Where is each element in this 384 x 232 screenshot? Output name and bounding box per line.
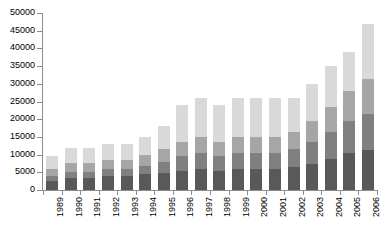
y-axis-tick-label: 10000 xyxy=(0,150,35,159)
bar xyxy=(288,98,300,190)
bar-segment xyxy=(176,171,188,190)
bar-segment xyxy=(269,169,281,190)
bar-segment xyxy=(65,163,77,171)
y-axis-labels: 5000045000400003500030000250002000015000… xyxy=(0,0,35,232)
bar-segment xyxy=(121,144,133,160)
y-axis-tick xyxy=(37,190,42,191)
bar xyxy=(46,156,58,190)
bar-segment xyxy=(306,121,318,142)
bar-segment xyxy=(343,91,355,121)
y-axis-tick-label: 5000 xyxy=(0,167,35,176)
x-axis-tick-label: 1990 xyxy=(75,197,84,217)
x-axis-tick-label: 1997 xyxy=(205,197,214,217)
y-axis-tick xyxy=(37,172,42,173)
bar xyxy=(65,148,77,190)
y-axis-tick xyxy=(37,66,42,67)
x-axis-tick xyxy=(266,191,267,195)
bar-segment xyxy=(176,105,188,142)
bar xyxy=(158,126,170,190)
bar xyxy=(306,84,318,190)
bar-segment xyxy=(195,98,207,137)
bar-segment xyxy=(232,98,244,137)
bar-segment xyxy=(65,148,77,164)
bar xyxy=(362,24,374,190)
x-axis-tick-label: 1992 xyxy=(112,197,121,217)
x-axis-tick xyxy=(321,191,322,195)
bar xyxy=(343,52,355,190)
x-axis-tick-label: 1994 xyxy=(149,197,158,217)
x-axis-tick xyxy=(358,191,359,195)
x-axis-tick-label: 1991 xyxy=(93,197,102,217)
bar-segment xyxy=(232,153,244,169)
x-axis-tick-label: 2001 xyxy=(279,197,288,217)
bar xyxy=(269,98,281,190)
y-axis-tick xyxy=(37,119,42,120)
bar-segment xyxy=(65,178,77,190)
bar xyxy=(325,66,337,190)
bar-segment xyxy=(343,121,355,153)
x-axis-tick xyxy=(229,191,230,195)
bar-segment xyxy=(139,166,151,174)
bar-segment xyxy=(213,156,225,171)
bar-segment xyxy=(102,160,114,170)
y-axis-tick-label: 15000 xyxy=(0,132,35,141)
bar-segment xyxy=(232,169,244,190)
bar-segment xyxy=(306,84,318,121)
y-axis-tick-label: 30000 xyxy=(0,79,35,88)
y-axis-tick-label: 0 xyxy=(0,185,35,194)
x-axis-tick-label: 2000 xyxy=(260,197,269,217)
bar xyxy=(250,98,262,190)
plot-area xyxy=(43,13,377,190)
bar-segment xyxy=(325,107,337,132)
x-axis-tick-label: 2002 xyxy=(298,197,307,217)
bar-segment xyxy=(195,153,207,169)
bar-segment xyxy=(46,156,58,168)
bar-segment xyxy=(213,142,225,156)
bar-segment xyxy=(250,153,262,169)
x-axis-tick-label: 2006 xyxy=(372,197,381,217)
y-axis-tick xyxy=(37,13,42,14)
bar-segment xyxy=(83,163,95,171)
x-axis-tick xyxy=(284,191,285,195)
x-axis-tick-label: 1995 xyxy=(168,197,177,217)
x-axis-tick xyxy=(136,191,137,195)
bar-segment xyxy=(139,155,151,166)
bar-segment xyxy=(325,132,337,159)
y-axis-tick-label: 25000 xyxy=(0,97,35,106)
bar-segment xyxy=(46,169,58,176)
x-axis-tick xyxy=(80,191,81,195)
bar-segment xyxy=(362,79,374,114)
y-axis-tick xyxy=(37,155,42,156)
x-axis-tick xyxy=(210,191,211,195)
x-axis-tick-label: 1998 xyxy=(223,197,232,217)
bar-segment xyxy=(269,98,281,137)
bar xyxy=(232,98,244,190)
bar-segment xyxy=(102,176,114,190)
bar xyxy=(139,137,151,190)
bar-segment xyxy=(362,24,374,79)
bar-segment xyxy=(102,144,114,160)
x-axis-tick xyxy=(62,191,63,195)
x-axis-tick-label: 1993 xyxy=(131,197,140,217)
bar-segment xyxy=(362,150,374,190)
stacked-bar-chart: 5000045000400003500030000250002000015000… xyxy=(0,0,384,232)
bar xyxy=(102,144,114,190)
bar-segment xyxy=(158,149,170,161)
bar xyxy=(121,144,133,190)
x-axis-tick-label: 2005 xyxy=(353,197,362,217)
x-axis-tick xyxy=(377,191,378,195)
bar-segment xyxy=(306,142,318,164)
bar-segment xyxy=(250,137,262,153)
bar-segment xyxy=(83,148,95,164)
bar-segment xyxy=(213,105,225,142)
bar-segment xyxy=(250,169,262,190)
bar-segment xyxy=(343,153,355,190)
y-axis-tick-label: 40000 xyxy=(0,43,35,52)
bar-segment xyxy=(158,173,170,190)
bar xyxy=(195,98,207,190)
x-axis-tick-label: 1996 xyxy=(186,197,195,217)
bar-segment xyxy=(325,159,337,191)
bar-segment xyxy=(288,149,300,167)
y-axis-tick-label: 45000 xyxy=(0,26,35,35)
x-axis-tick xyxy=(340,191,341,195)
